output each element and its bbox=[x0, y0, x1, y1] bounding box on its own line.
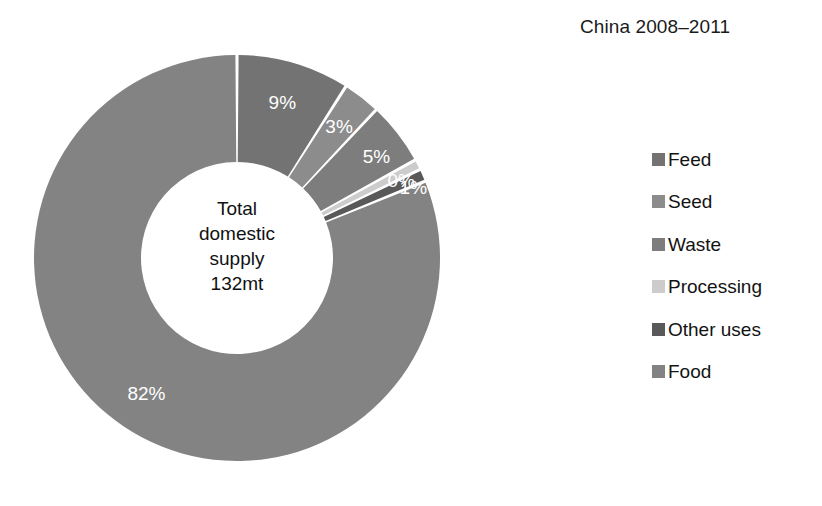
legend-item-label: Food bbox=[668, 362, 711, 381]
legend-item-label: Seed bbox=[668, 192, 712, 211]
legend-item-label: Other uses bbox=[668, 320, 761, 339]
legend-item-label: Waste bbox=[668, 235, 721, 254]
legend-swatch-icon bbox=[652, 280, 665, 293]
legend-swatch-icon bbox=[652, 365, 665, 378]
legend-item-label: Processing bbox=[668, 277, 762, 296]
legend-item-food[interactable]: Food bbox=[652, 351, 812, 394]
slice-data-label-other-uses: 1% bbox=[400, 177, 428, 198]
chart-title: China 2008–2011 bbox=[505, 16, 805, 38]
legend-item-label: Feed bbox=[668, 150, 711, 169]
center-line-3: supply bbox=[137, 246, 337, 271]
legend-swatch-icon bbox=[652, 323, 665, 336]
slice-data-label-food: 82% bbox=[127, 383, 165, 404]
slice-data-label-waste: 5% bbox=[363, 146, 391, 167]
center-line-2: domestic bbox=[137, 221, 337, 246]
donut-chart-figure: China 2008–2011 9%3%5%0%1%82% Total dome… bbox=[0, 0, 822, 506]
legend-item-feed[interactable]: Feed bbox=[652, 138, 812, 181]
legend-swatch-icon bbox=[652, 195, 665, 208]
slice-data-label-feed: 9% bbox=[269, 92, 297, 113]
slice-data-label-seed: 3% bbox=[325, 116, 353, 137]
legend-item-seed[interactable]: Seed bbox=[652, 181, 812, 224]
legend-swatch-icon bbox=[652, 238, 665, 251]
chart-legend: FeedSeedWasteProcessingOther usesFood bbox=[652, 138, 812, 393]
legend-swatch-icon bbox=[652, 153, 665, 166]
donut-center-annotation: Total domestic supply 132mt bbox=[137, 196, 337, 296]
legend-item-other-uses[interactable]: Other uses bbox=[652, 308, 812, 351]
center-line-1: Total bbox=[137, 196, 337, 221]
legend-item-waste[interactable]: Waste bbox=[652, 223, 812, 266]
center-line-4: 132mt bbox=[137, 271, 337, 296]
legend-item-processing[interactable]: Processing bbox=[652, 266, 812, 309]
